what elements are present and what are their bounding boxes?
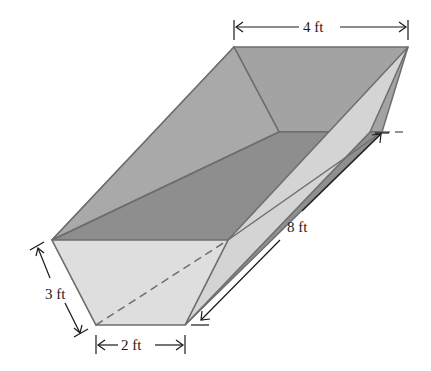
label-top-width: 4 ft [303,19,324,35]
label-bottom-width: 2 ft [121,337,142,353]
label-length: 8 ft [287,219,308,235]
trough-diagram: 4 ft 8 ft 3 ft 2 ft [0,0,431,371]
label-height: 3 ft [45,286,66,302]
